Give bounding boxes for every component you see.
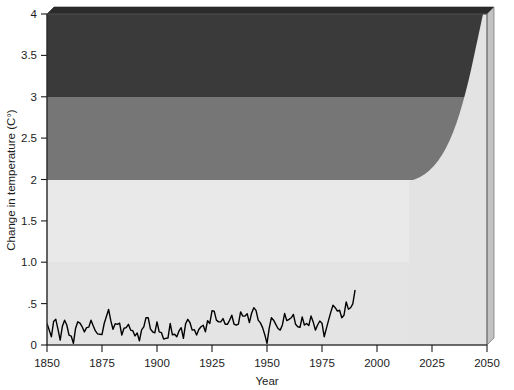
x-tick-label-2050: 2050	[474, 357, 500, 369]
y-tick-label-1.0: 1.0	[21, 256, 37, 268]
y-tick-label-1.5: 1.5	[21, 215, 37, 227]
plot-area	[47, 14, 487, 345]
y-tick-label-0.5: .5	[27, 298, 37, 310]
x-tick-label-1900: 1900	[144, 357, 170, 369]
y-tick-label-4.0: 4	[31, 8, 38, 20]
y-tick-label-3.5: 3.5	[21, 49, 37, 61]
x-tick-label-1975: 1975	[309, 357, 335, 369]
x-tick-label-2025: 2025	[419, 357, 445, 369]
y-axis-ticks	[41, 14, 47, 345]
y-axis-title: Change in temperature (C°)	[5, 109, 17, 251]
x-tick-label-2000: 2000	[364, 357, 390, 369]
x-tick-label-1925: 1925	[199, 357, 225, 369]
chart-bevel-top	[47, 7, 494, 14]
x-tick-label-1850: 1850	[34, 357, 60, 369]
y-tick-label-3.0: 3	[31, 91, 37, 103]
x-tick-label-1950: 1950	[254, 357, 280, 369]
x-axis-tick-labels: 1850 1875 1900 1925 1950 1975 2000 2025 …	[34, 357, 500, 369]
x-tick-label-1875: 1875	[89, 357, 115, 369]
chart-bevel-right	[487, 7, 494, 345]
band-severe-risk	[47, 14, 487, 97]
y-tick-label-2.5: 2.5	[21, 132, 37, 144]
y-axis-tick-labels: 0 .5 1.0 1.5 2 2.5 3 3.5 4	[21, 8, 38, 351]
y-tick-label-0: 0	[31, 339, 37, 351]
temperature-projection-chart: 0 .5 1.0 1.5 2 2.5 3 3.5 4 1850 1875 19	[0, 0, 514, 390]
band-high-risk	[47, 97, 487, 180]
y-tick-label-2.0: 2	[31, 174, 37, 186]
chart-container: 0 .5 1.0 1.5 2 2.5 3 3.5 4 1850 1875 19	[0, 0, 514, 390]
x-axis-ticks	[47, 345, 487, 352]
x-axis-title: Year	[255, 375, 278, 387]
